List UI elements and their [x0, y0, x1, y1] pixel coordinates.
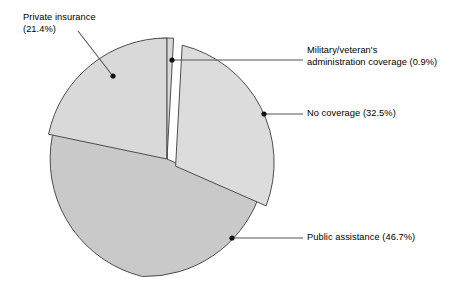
pie-chart-figure: Private insurance(21.4%) Military/vetera…: [0, 0, 475, 301]
leader-dot-no-coverage: [261, 111, 266, 116]
pie-slice-military-veterans[interactable]: [167, 38, 174, 159]
pie-label-military-veterans-line1: Military/veteran's: [307, 45, 377, 55]
pie-label-private-insurance: Private insurance(21.4%): [23, 12, 96, 35]
pie-label-military-veterans-line2: administration coverage (0.9%): [307, 57, 437, 67]
leader-dot-military-veterans: [169, 57, 174, 62]
pie-label-public-assistance: Public assistance (46.7%): [307, 232, 415, 244]
leader-no-coverage: [261, 111, 303, 116]
pie-label-private-insurance-line1: Private insurance: [23, 12, 96, 22]
pie-label-no-coverage: No coverage (32.5%): [307, 108, 396, 120]
leader-dot-private-insurance: [110, 73, 115, 78]
leader-public-assistance: [229, 235, 303, 240]
pie-label-military-veterans: Military/veteran'sadministration coverag…: [307, 45, 437, 68]
pie-label-private-insurance-line2: (21.4%): [23, 24, 56, 34]
leader-dot-public-assistance: [229, 235, 234, 240]
